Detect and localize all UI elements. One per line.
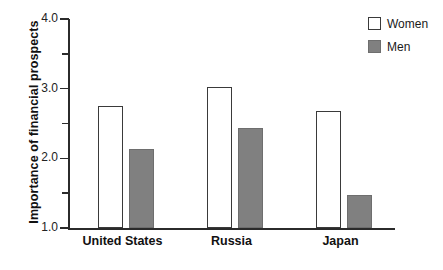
bar-men-russia[interactable] bbox=[238, 128, 263, 228]
legend-entry-women[interactable]: Women bbox=[368, 14, 443, 33]
x-axis-line bbox=[68, 228, 395, 230]
y-axis-title: Importance of financial prospects bbox=[27, 17, 45, 227]
y-tick-label: 1.0 bbox=[0, 220, 58, 234]
bar-men-japan[interactable] bbox=[347, 195, 372, 228]
bar-women-japan[interactable] bbox=[316, 111, 341, 228]
filled-square-icon bbox=[368, 40, 381, 53]
legend: Women Men bbox=[368, 14, 443, 60]
bar-women-united-states[interactable] bbox=[98, 106, 123, 228]
plot-area bbox=[68, 19, 395, 228]
open-square-icon bbox=[368, 17, 381, 30]
bar-women-russia[interactable] bbox=[207, 87, 232, 228]
legend-entry-men[interactable]: Men bbox=[368, 37, 443, 56]
x-axis-label-russia: Russia bbox=[177, 234, 286, 248]
y-tick-label: 2.0 bbox=[0, 150, 58, 164]
bar-chart: Importance of financial prospects 1.02.0… bbox=[0, 0, 443, 270]
x-axis-label-japan: Japan bbox=[286, 234, 395, 248]
legend-label-women: Women bbox=[387, 17, 428, 31]
y-tick-label: 4.0 bbox=[0, 11, 58, 25]
y-tick-label: 3.0 bbox=[0, 81, 58, 95]
x-axis-label-united-states: United States bbox=[68, 234, 177, 248]
bar-men-united-states[interactable] bbox=[129, 149, 154, 228]
legend-label-men: Men bbox=[387, 40, 410, 54]
